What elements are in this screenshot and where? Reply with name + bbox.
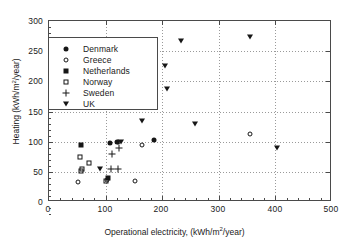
xtick-label-300: 300: [198, 204, 238, 214]
data-point-sweden: [116, 144, 123, 151]
y-axis-title-superscript: 2: [11, 80, 17, 83]
open-square-icon: [64, 80, 69, 85]
data-point-netherlands: [79, 142, 84, 147]
data-point-sweden: [115, 165, 122, 172]
data-point-uk: [247, 35, 253, 40]
legend-entry-uk: UK: [49, 98, 159, 109]
y-axis-title-suffix: /year): [11, 58, 21, 80]
legend-marker-greece: [49, 54, 83, 65]
filled-circle-icon: [64, 47, 69, 52]
legend-label-greece: Greece: [83, 55, 111, 65]
chart-legend: Denmark Greece Netherlands Norway Sweden…: [48, 37, 158, 110]
triangle-down-icon: [63, 102, 69, 107]
data-point-norway: [86, 161, 91, 166]
data-point-norway: [78, 154, 83, 159]
data-point-greece: [133, 178, 138, 183]
legend-entry-netherlands: Netherlands: [49, 65, 159, 76]
legend-entry-denmark: Denmark: [49, 43, 159, 54]
data-point-norway: [79, 167, 84, 172]
xtick-label-0: 0: [28, 204, 68, 214]
legend-marker-sweden: [49, 87, 83, 98]
scatter-chart-figure: 300 250 200 150 100 50 0 0 100 200 300 4…: [0, 0, 349, 247]
data-point-uk: [139, 118, 145, 123]
y-axis-title-prefix: Heating (kWh/m: [11, 83, 21, 144]
open-circle-icon: [64, 58, 69, 63]
data-point-greece: [248, 132, 253, 137]
data-point-greece: [76, 180, 81, 185]
legend-marker-netherlands: [49, 65, 83, 76]
data-point-uk: [192, 121, 198, 126]
legend-entry-greece: Greece: [49, 54, 159, 65]
legend-label-uk: UK: [83, 99, 95, 109]
x-axis-title-prefix: Operational electricity, (kWh/m: [104, 227, 219, 237]
legend-label-denmark: Denmark: [83, 44, 118, 54]
legend-label-norway: Norway: [83, 77, 112, 87]
data-point-uk: [164, 87, 170, 92]
data-point-denmark: [151, 137, 156, 142]
data-point-uk: [97, 166, 103, 171]
xtick-label-500: 500: [311, 204, 349, 214]
data-point-norway: [103, 178, 108, 183]
data-point-denmark: [108, 140, 113, 145]
xtick-label-400: 400: [255, 204, 295, 214]
data-point-sweden: [109, 150, 116, 157]
filled-square-icon: [64, 69, 69, 74]
x-axis-title: Operational electricity, (kWh/m2/year): [0, 226, 349, 237]
legend-entry-norway: Norway: [49, 76, 159, 87]
data-point-uk: [118, 139, 124, 144]
tick-y-minor: [49, 214, 51, 215]
legend-marker-norway: [49, 76, 83, 87]
tick-y-minor: [49, 208, 51, 209]
data-point-uk: [178, 38, 184, 43]
xtick-label-200: 200: [141, 204, 181, 214]
legend-marker-denmark: [49, 43, 83, 54]
legend-entry-sweden: Sweden: [49, 87, 159, 98]
xtick-label-100: 100: [85, 204, 125, 214]
legend-marker-uk: [49, 98, 83, 109]
ytick-label-300: 300: [17, 16, 43, 26]
data-point-uk: [162, 64, 168, 69]
legend-label-sweden: Sweden: [83, 88, 114, 98]
plus-icon: [63, 90, 70, 97]
y-axis-title: Heating (kWh/m2/year): [11, 31, 22, 171]
legend-label-netherlands: Netherlands: [83, 66, 130, 76]
data-point-uk: [274, 146, 280, 151]
x-axis-title-suffix: /year): [223, 227, 245, 237]
data-point-greece: [140, 142, 145, 147]
